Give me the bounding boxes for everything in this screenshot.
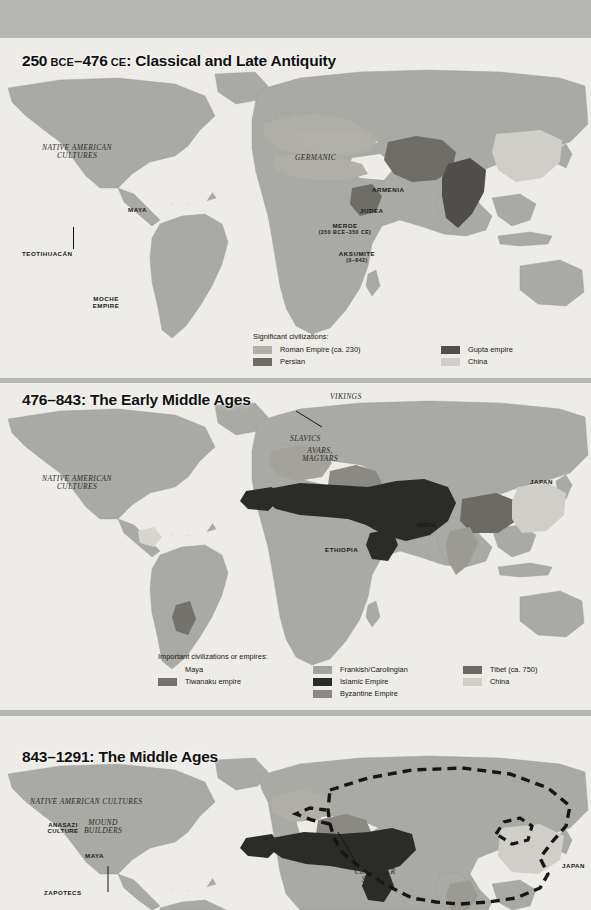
legend-swatch-frankish [313, 666, 332, 674]
label-japan-2: JAPAN [530, 479, 553, 486]
legend-swatch-china-1 [441, 358, 460, 366]
legend-swatch-maya-2 [158, 666, 177, 674]
map-title-2: 476–843: The Early Middle Ages [22, 391, 251, 409]
legend-swatch-islamic [313, 678, 332, 686]
legend-swatch-persian [253, 358, 272, 366]
legend-column-1a: Roman Empire (ca. 230) Persian [253, 344, 361, 368]
legend-label-tiwanaku: Tiwanaku empire [185, 677, 241, 686]
legend-item: Persian [253, 356, 361, 367]
map-panel-middle-ages: 843–1291: The Middle Ages NATIVE AMERICA… [0, 716, 591, 910]
legend-swatch-tiwanaku [158, 678, 177, 686]
legend-item: China [441, 356, 513, 367]
page-root: 250 BCE–476 CE: Classical and Late Antiq… [0, 0, 591, 910]
legend-item: Gupta empire [441, 344, 513, 355]
map-panel-early-middle-ages: 476–843: The Early Middle Ages VIKINGS N… [0, 383, 591, 710]
label-vikings-2: VIKINGS [330, 393, 362, 401]
legend-column-2c: Tibet (ca. 750) China [463, 664, 537, 688]
label-judea-1: JUDEA [360, 208, 383, 215]
legend-swatch-roman [253, 346, 272, 354]
legend-label-china-2: China [490, 677, 509, 686]
legend-label-gupta: Gupta empire [468, 345, 513, 354]
legend-swatch-byzantine [313, 690, 332, 698]
map-legend-1: Significant civilizations: Roman Empire … [253, 332, 329, 344]
label-native-american-cultures-1: NATIVE AMERICANCULTURES [32, 144, 122, 160]
legend-item: China [463, 676, 537, 687]
legend-swatch-gupta [441, 346, 460, 354]
world-map-graphic-3 [0, 716, 591, 910]
label-slavics-2: SLAVICS [290, 435, 321, 443]
legend-item: Roman Empire (ca. 230) [253, 344, 361, 355]
legend-item: Frankish/Carolingian [313, 664, 408, 675]
legend-item: Tibet (ca. 750) [463, 664, 537, 675]
legend-title-2: Important civilizations or empires: [158, 652, 268, 661]
legend-item: Maya [158, 664, 241, 675]
legend-item: Tiwanaku empire [158, 676, 241, 687]
label-moche-empire-1: MOCHEEMPIRE [82, 296, 130, 309]
world-map-graphic-1 [0, 38, 591, 378]
map-title-3: 843–1291: The Middle Ages [22, 748, 218, 766]
legend-column-1b: Gupta empire China [441, 344, 513, 368]
label-armenia-1: ARMENIA [372, 187, 404, 194]
legend-column-2b: Frankish/Carolingian Islamic Empire Byza… [313, 664, 408, 700]
label-native-american-cultures-2: NATIVE AMERICANCULTURES [32, 475, 122, 491]
label-native-american-cultures-3: NATIVE AMERICAN CULTURES [30, 798, 142, 806]
label-aksumite-1: AKSUMITE(0–842) [325, 251, 389, 263]
label-meroe-1: MEROE(350 BCE–350 CE) [307, 223, 383, 235]
legend-title-1: Significant civilizations: [253, 332, 329, 341]
map-legend-2: Important civilizations or empires: Maya… [158, 652, 268, 664]
legend-swatch-china-2 [463, 678, 482, 686]
map-title-1: 250 BCE–476 CE: Classical and Late Antiq… [22, 52, 336, 70]
legend-label-maya-2: Maya [185, 665, 203, 674]
legend-item: Byzantine Empire [313, 688, 408, 699]
label-zapotecs-3: ZAPOTECS [44, 890, 82, 897]
label-mound-builders-3: MOUNDBUILDERS [80, 819, 126, 835]
leader-line-teotihuacan [73, 227, 74, 249]
legend-item: Islamic Empire [313, 676, 408, 687]
label-avars-magyars-2: AVARS,MAGYARS [294, 447, 346, 463]
map-panel-classical-late-antiquity: 250 BCE–476 CE: Classical and Late Antiq… [0, 38, 591, 378]
panel-gap-2 [0, 710, 591, 716]
label-germanic-1: GERMANIC [295, 154, 336, 162]
label-japan-3: JAPAN [562, 863, 585, 870]
legend-label-roman: Roman Empire (ca. 230) [280, 345, 361, 354]
legend-swatch-tibet [463, 666, 482, 674]
world-map-graphic-2 [0, 383, 591, 710]
legend-label-islamic: Islamic Empire [340, 677, 388, 686]
panel-gap-1 [0, 378, 591, 383]
legend-label-tibet: Tibet (ca. 750) [490, 665, 537, 674]
page-top-margin [0, 0, 591, 38]
label-maya-1: MAYA [128, 207, 147, 214]
label-ethiopia-2: ETHIOPIA [325, 547, 358, 554]
label-india-2: INDIA [417, 522, 436, 529]
legend-label-frankish: Frankish/Carolingian [340, 665, 408, 674]
legend-label-china-1: China [468, 357, 487, 366]
label-maya-3: MAYA [85, 853, 104, 860]
label-crusader-states-3: CRUSADERSTATES [350, 868, 400, 884]
legend-column-2a: Maya Tiwanaku empire [158, 664, 241, 688]
label-teotihuacan-1: TEOTIHUACÁN [22, 251, 73, 258]
legend-label-byzantine: Byzantine Empire [340, 689, 398, 698]
legend-label-persian: Persian [280, 357, 305, 366]
